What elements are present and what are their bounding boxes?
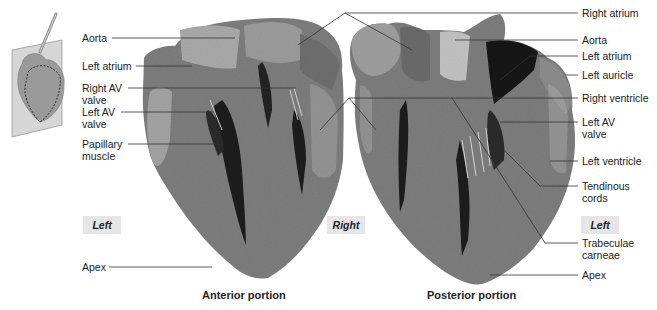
side-tag-anterior-left: Left: [83, 216, 121, 234]
anterior-heart-section: [143, 18, 344, 279]
label-line-1: Left AV: [82, 107, 115, 119]
caption-posterior: Posterior portion: [427, 289, 516, 301]
label-line-2: carneae: [582, 250, 634, 262]
label-anterior-aorta: Aorta: [82, 33, 107, 45]
label-anterior-right-av-valve: Right AV valve: [82, 83, 122, 106]
label-line-2: valve: [582, 129, 615, 141]
heart-section-figure: Aorta Left atrium Right AV valve Left AV…: [0, 0, 657, 310]
label-line-1: Tendinous: [582, 181, 630, 193]
label-posterior-right-atrium: Right atrium: [582, 8, 639, 20]
label-line-1: Trabeculae: [582, 238, 634, 250]
label-line-2: muscle: [82, 151, 122, 163]
label-line-2: valve: [82, 119, 115, 131]
label-line-1: Left AV: [582, 117, 615, 129]
label-anterior-left-av-valve: Left AV valve: [82, 107, 115, 130]
label-posterior-left-ventricle: Left ventricle: [582, 156, 642, 168]
label-posterior-aorta: Aorta: [582, 35, 607, 47]
label-line-2: cords: [582, 193, 630, 205]
label-posterior-trabeculae-carneae: Trabeculae carneae: [582, 238, 634, 261]
label-line-1: Right AV: [82, 83, 122, 95]
label-posterior-left-av-valve: Left AV valve: [582, 117, 615, 140]
label-posterior-left-auricle: Left auricle: [582, 70, 633, 82]
posterior-heart-section: [350, 14, 575, 284]
label-line-1: Papillary: [82, 139, 122, 151]
label-anterior-left-atrium: Left atrium: [82, 61, 132, 73]
side-tag-anterior-right: Right: [327, 216, 365, 234]
label-anterior-apex: Apex: [82, 262, 106, 274]
caption-anterior: Anterior portion: [202, 289, 286, 301]
label-line-2: valve: [82, 95, 122, 107]
label-posterior-left-atrium: Left atrium: [582, 51, 632, 63]
label-posterior-tendinous-cords: Tendinous cords: [582, 181, 630, 204]
heart-section-plane-icon: [12, 14, 64, 137]
label-anterior-papillary-muscle: Papillary muscle: [82, 139, 122, 162]
side-tag-posterior-left: Left: [581, 216, 619, 234]
label-posterior-apex: Apex: [582, 270, 606, 282]
label-posterior-right-ventricle: Right ventricle: [582, 93, 649, 105]
